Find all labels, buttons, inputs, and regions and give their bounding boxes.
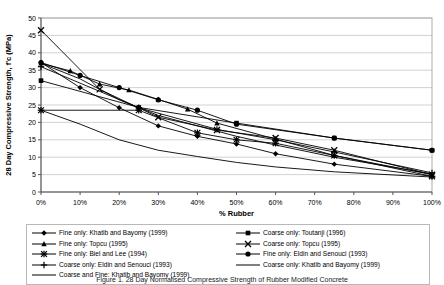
legend-item-label: Fine only: Eldin and Senouci (1993) <box>263 249 367 259</box>
legend-item-label: Coarse only: Khatib and Bayomy (1999) <box>263 260 380 270</box>
y-axis-tick-label: 45 <box>28 32 36 39</box>
x-axis-tick-label: 50% <box>229 199 243 206</box>
legend-item: Fine only: Eldin and Senouci (1993) <box>235 249 425 260</box>
data-point-marker <box>156 97 161 102</box>
data-point-marker <box>332 135 337 140</box>
x-axis-tick-label: 30% <box>151 199 165 206</box>
data-point-marker <box>245 252 250 257</box>
marker-circle <box>156 97 161 102</box>
legend-item: Coarse only: Eldin and Senouci (1993) <box>31 260 231 271</box>
x-axis-tick-label: 40% <box>190 199 204 206</box>
legend-marker-cross-x-icon <box>235 239 261 249</box>
legend-item-label: Fine only: Biel and Lee (1994) <box>59 249 147 259</box>
y-axis-tick-label: 30 <box>28 84 36 91</box>
y-axis-tick-label: 10 <box>28 154 36 161</box>
data-point-marker <box>194 130 201 137</box>
data-point-marker <box>246 231 251 236</box>
x-axis-tick-label: 0% <box>36 199 46 206</box>
legend-marker-plus-icon <box>31 260 57 270</box>
legend-marker-line-icon <box>235 260 261 270</box>
data-point-marker <box>39 78 44 83</box>
marker-square <box>246 231 251 236</box>
legend-marker-star-icon <box>31 249 57 259</box>
x-axis-tick-label: 80% <box>347 199 361 206</box>
chart-plot-area: 051015202530354045500%10%20%30%40%50%60%… <box>0 0 444 218</box>
data-point-marker <box>78 73 83 78</box>
data-point-marker <box>41 251 48 258</box>
y-axis-tick-label: 5 <box>32 171 36 178</box>
marker-circle <box>234 122 239 127</box>
y-axis-tick-label: 50 <box>28 15 36 22</box>
figure-caption: Figure 1. 28 Day Normalised Compressive … <box>0 276 444 284</box>
marker-circle <box>429 148 434 153</box>
marker-circle <box>117 85 122 90</box>
y-axis-title: 28 Day Compressive Strength, f'c (MPa) <box>4 34 13 176</box>
data-point-marker <box>41 262 47 268</box>
legend-item-label: Coarse only: Eldin and Senouci (1993) <box>59 260 172 270</box>
legend-item: Fine only: Topcu (1995) <box>31 239 231 250</box>
y-axis-tick-label: 0 <box>32 189 36 196</box>
legend-item: Fine only: Khatib and Bayomy (1999) <box>31 228 231 239</box>
data-point-marker <box>233 137 240 144</box>
legend-item-label: Fine only: Khatib and Bayomy (1999) <box>59 228 168 238</box>
data-point-marker <box>41 231 46 236</box>
y-axis-tick-label: 20 <box>28 119 36 126</box>
data-point-marker <box>195 108 200 113</box>
y-axis-tick-label: 35 <box>28 67 36 74</box>
legend-marker-square-icon <box>235 228 261 238</box>
x-axis-tick-label: 20% <box>112 199 126 206</box>
x-axis-tick-label: 60% <box>269 199 283 206</box>
legend-item-label: Coarse only: Toutanji (1996) <box>263 228 345 238</box>
x-axis-tick-label: 70% <box>308 199 322 206</box>
legend-item: Fine only: Biel and Lee (1994) <box>31 249 231 260</box>
legend-item-label: Fine only: Topcu (1995) <box>59 239 128 249</box>
y-axis-tick-label: 15 <box>28 136 36 143</box>
marker-circle <box>195 108 200 113</box>
legend-grid: Fine only: Khatib and Bayomy (1999) Coar… <box>31 228 425 281</box>
marker-circle <box>78 73 83 78</box>
marker-circle <box>332 135 337 140</box>
legend-marker-diamond-icon <box>31 228 57 238</box>
legend-marker-triangle-icon <box>31 239 57 249</box>
y-axis-tick-label: 25 <box>28 102 36 109</box>
chart-svg: 051015202530354045500%10%20%30%40%50%60%… <box>0 0 444 218</box>
data-point-marker <box>234 122 239 127</box>
legend-marker-circle-icon <box>235 249 261 259</box>
marker-square <box>39 78 44 83</box>
x-axis-title: % Rubber <box>219 209 254 218</box>
x-axis-tick-label: 10% <box>73 199 87 206</box>
legend-item: Coarse only: Topcu (1995) <box>235 239 425 250</box>
marker-circle <box>245 252 250 257</box>
legend-item: Coarse only: Khatib and Bayomy (1999) <box>235 260 425 271</box>
data-point-marker <box>429 148 434 153</box>
marker-diamond <box>41 231 46 236</box>
x-axis-tick-label: 90% <box>386 199 400 206</box>
x-axis-tick-label: 100% <box>423 199 441 206</box>
legend-item-label: Coarse only: Topcu (1995) <box>263 239 340 249</box>
y-axis-tick-label: 40 <box>28 49 36 56</box>
data-point-marker <box>117 85 122 90</box>
legend-item: Coarse only: Toutanji (1996) <box>235 228 425 239</box>
